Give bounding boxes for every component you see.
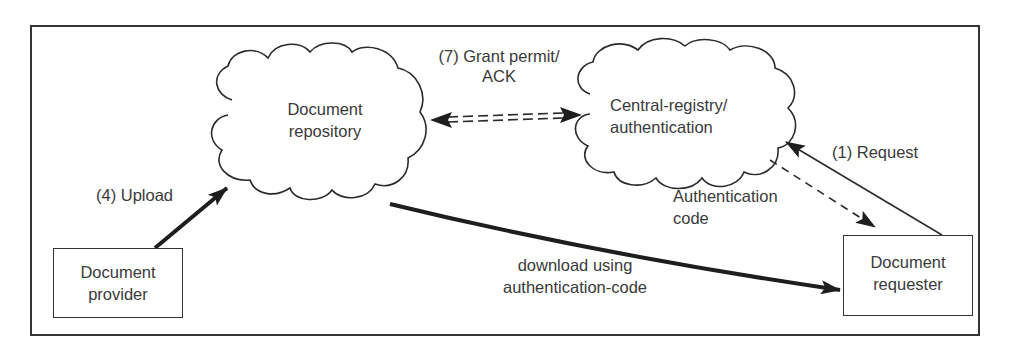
grant-permit-label-line1: (7) Grant permit/ xyxy=(424,45,574,67)
document-requester-label: Document requester xyxy=(870,251,945,295)
grant-permit-label-line2: ACK xyxy=(424,65,574,87)
document-requester-label-line1: Document xyxy=(870,251,945,273)
document-requester-label-line2: requester xyxy=(870,273,945,295)
document-provider-box: Document provider xyxy=(53,248,183,318)
grant-permit-label: (7) Grant permit/ ACK xyxy=(424,45,574,87)
request-label: (1) Request xyxy=(832,141,918,163)
central-registry-label-line1: Central-registry/ xyxy=(610,94,750,116)
document-repository-label-line1: Document xyxy=(275,98,375,120)
auth-code-label: Authentication code xyxy=(673,185,778,229)
download-label-line2: authentication-code xyxy=(485,276,665,298)
grant-permit-arrow xyxy=(430,107,582,128)
request-label-text: (1) Request xyxy=(832,143,918,161)
document-requester-box: Document requester xyxy=(843,235,973,316)
auth-code-arrow xyxy=(770,160,875,227)
download-label-line1: download using xyxy=(485,254,665,276)
document-provider-label-line2: provider xyxy=(80,283,155,305)
document-repository-label: Document repository xyxy=(275,98,375,142)
auth-code-label-line2: code xyxy=(673,207,778,229)
upload-label-text: (4) Upload xyxy=(96,186,173,204)
download-label: download using authentication-code xyxy=(485,254,665,298)
auth-code-label-line1: Authentication xyxy=(673,185,778,207)
central-registry-label: Central-registry/ authentication xyxy=(610,94,750,138)
document-provider-label-line1: Document xyxy=(80,261,155,283)
upload-label: (4) Upload xyxy=(96,184,173,206)
central-registry-label-line2: authentication xyxy=(610,116,750,138)
document-repository-label-line2: repository xyxy=(275,120,375,142)
document-provider-label: Document provider xyxy=(80,261,155,305)
